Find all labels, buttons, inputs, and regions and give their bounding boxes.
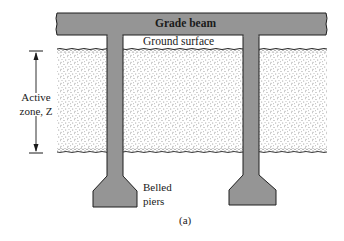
active-zone-label: Active zone, Z (13, 91, 59, 119)
belled-piers-label: Belled piers (143, 180, 172, 209)
belled-pier-foundation-diagram: Grade beam Ground surface Active zone, Z… (0, 0, 344, 241)
arrow-down-icon (34, 144, 39, 152)
grade-beam-label: Grade beam (155, 18, 216, 30)
belled-piers-label-line1: Belled (143, 180, 172, 194)
arrow-up-icon (34, 52, 39, 60)
active-zone-label-line1: Active (13, 91, 59, 105)
soil-layer (57, 49, 327, 153)
figure-caption: (a) (179, 215, 191, 226)
active-zone-label-line2: zone, Z (13, 105, 59, 119)
ground-surface-label: Ground surface (143, 36, 214, 48)
belled-piers-label-line2: piers (143, 194, 172, 208)
